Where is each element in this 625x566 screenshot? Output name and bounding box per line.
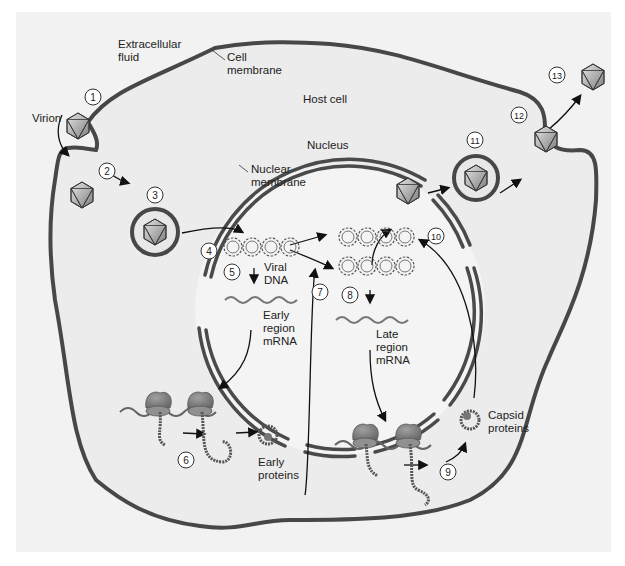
step-1: 1 — [90, 92, 96, 103]
step-2: 2 — [104, 166, 110, 177]
step-10: 10 — [431, 232, 441, 242]
step-8: 8 — [347, 290, 353, 301]
virion-endosome — [132, 209, 178, 255]
diagram-canvas: 1 2 3 4 5 6 7 8 9 10 11 12 13 Extracellu… — [0, 0, 625, 566]
label-viral-dna: Viral DNA — [264, 261, 290, 286]
step-3: 3 — [152, 190, 158, 201]
virion-vesicle — [454, 156, 498, 200]
step-13: 13 — [552, 71, 562, 81]
label-host-cell: Host cell — [303, 93, 347, 105]
step-11: 11 — [470, 136, 479, 146]
label-nucleus: Nucleus — [307, 139, 349, 151]
label-virion: Virion — [32, 112, 61, 124]
viral-replication-diagram: 1 2 3 4 5 6 7 8 9 10 11 12 13 Extracellu… — [0, 0, 625, 566]
step-4: 4 — [206, 246, 212, 257]
label-capsid-proteins: Capsid proteins — [488, 409, 529, 434]
step-7: 7 — [317, 287, 323, 298]
step-9: 9 — [445, 467, 451, 478]
step-5: 5 — [229, 267, 235, 278]
step-6: 6 — [183, 455, 189, 466]
step-12: 12 — [514, 111, 524, 121]
